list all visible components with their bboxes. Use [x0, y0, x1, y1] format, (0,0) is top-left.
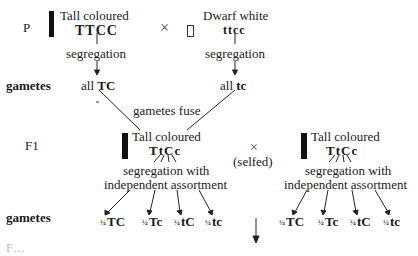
gametes-row-label-2: gametes: [6, 211, 51, 225]
f1-generation-label: F1: [25, 139, 39, 153]
f1-right-phenotype: Tall coloured: [311, 130, 380, 144]
f1-right-gamete: ¼Tc: [318, 214, 338, 230]
f1-right-gamete: ¼tC: [350, 214, 371, 230]
speck: [96, 101, 99, 103]
parent1-segregation: segregation: [66, 47, 126, 61]
parent2-genotype: ttcc: [223, 23, 246, 38]
f1-left-process-line1: segregation with: [123, 164, 209, 178]
tall-plant-icon-f1-left: [122, 133, 128, 159]
gametes-fuse-label: gametes fuse: [133, 104, 201, 118]
f1-right-genotype: TtCc: [326, 143, 358, 159]
cross-symbol: ×: [160, 19, 169, 37]
parent1-genotype: TTCC: [75, 23, 118, 39]
f1-right-gamete: ¼TC: [279, 214, 304, 230]
parent2-phenotype: Dwarf white: [203, 9, 268, 23]
parental-generation-label: P: [23, 21, 30, 35]
parent2-segregation: segregation: [205, 47, 265, 61]
f1-left-phenotype: Tall coloured: [132, 130, 201, 144]
f1-right-process-line1: segregation with: [305, 164, 391, 178]
parent1-gametes: all TC: [81, 79, 115, 93]
parent1-phenotype: Tall coloured: [60, 9, 129, 23]
f1-left-gamete: ¼TC: [100, 214, 125, 230]
f1-right-process-line2: independent assortment: [284, 178, 407, 192]
f1-left-gamete: ¼tc: [205, 214, 222, 230]
f1-right-gamete: ¼tc: [383, 214, 400, 230]
tall-plant-icon-f1-right: [301, 133, 307, 159]
footer-partial-text: F…: [6, 241, 25, 256]
f1-left-gamete: ¼tC: [174, 214, 195, 230]
gametes-row-label: gametes: [6, 79, 51, 93]
f1-left-gamete: ¼Tc: [142, 214, 162, 230]
parent2-gametes: all tc: [220, 79, 246, 93]
f1-left-genotype: TtCc: [149, 143, 181, 159]
selfed-label: (selfed): [233, 155, 273, 169]
tall-plant-icon: [49, 11, 54, 37]
dwarf-plant-icon: [187, 25, 194, 37]
f1-left-process-line2: independent assortment: [104, 178, 227, 192]
